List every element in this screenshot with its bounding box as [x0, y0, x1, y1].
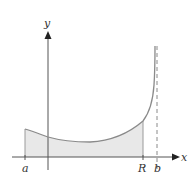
improper-integral-diagram: x y a R b	[0, 0, 190, 187]
tick-label-a: a	[22, 162, 29, 175]
diagram-svg: x y a R b	[0, 0, 190, 187]
shaded-area	[25, 121, 143, 157]
tick-label-R: R	[137, 162, 146, 175]
function-curve	[25, 46, 155, 142]
y-axis-label: y	[43, 17, 51, 30]
y-axis-arrow-icon	[45, 31, 52, 39]
x-axis-label: x	[181, 151, 188, 164]
tick-label-b: b	[154, 162, 161, 175]
x-axis-arrow-icon	[172, 154, 180, 161]
